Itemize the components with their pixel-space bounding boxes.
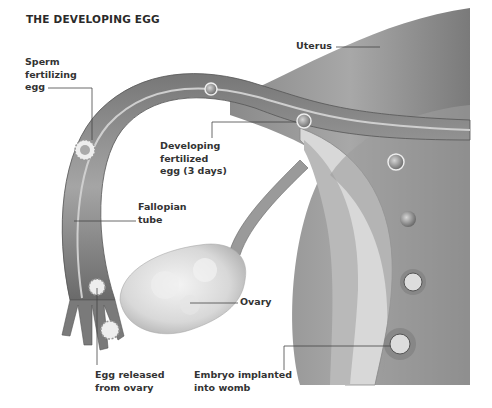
egg-morula-1 [388, 154, 404, 170]
label-line: Uterus [296, 40, 332, 53]
label-line: fertilized [160, 153, 227, 166]
embryo-implanted [384, 328, 416, 360]
label-ovary: Ovary [240, 296, 272, 309]
egg-in-tube [205, 83, 217, 95]
label-line: egg [25, 81, 77, 94]
label-embryo-implanted: Embryo implanted into womb [194, 369, 292, 394]
label-line: Embryo implanted [194, 369, 292, 382]
egg-sperm-fertilizing [75, 140, 95, 160]
egg-developing [297, 114, 311, 128]
label-egg-released: Egg released from ovary [95, 369, 165, 394]
label-sperm-fertilizing: Sperm fertilizing egg [25, 56, 77, 94]
label-line: into womb [194, 382, 292, 395]
diagram-title: THE DEVELOPING EGG [26, 13, 160, 25]
label-fallopian-tube: Fallopian tube [138, 201, 187, 226]
egg-morula-2 [400, 211, 416, 227]
label-line: Developing [160, 140, 227, 153]
ovary-shape [120, 244, 246, 334]
label-line: egg (3 days) [160, 165, 227, 178]
label-line: from ovary [95, 382, 165, 395]
label-line: Ovary [240, 296, 272, 309]
label-line: Sperm [25, 56, 77, 69]
label-line: Fallopian [138, 201, 187, 214]
label-developing-egg: Developing fertilized egg (3 days) [160, 140, 227, 178]
blastocyst-implanting [400, 269, 426, 295]
label-line: Egg released [95, 369, 165, 382]
label-line: fertilizing [25, 69, 77, 82]
label-uterus: Uterus [296, 40, 332, 53]
label-line: tube [138, 214, 187, 227]
